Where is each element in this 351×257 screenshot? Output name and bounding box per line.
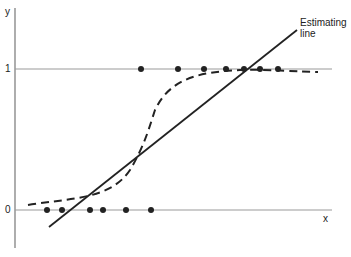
plot-area xyxy=(0,0,351,257)
estimating-line xyxy=(49,30,297,227)
y-tick-1: 1 xyxy=(5,63,11,74)
y-axis-label: y xyxy=(5,6,10,17)
x-axis-label: x xyxy=(323,213,328,224)
logistic-curve xyxy=(28,70,318,205)
annotation-line: line xyxy=(300,28,316,39)
annotation-estimating: Estimating xyxy=(300,17,347,28)
figure: y 1 0 x Estimating line xyxy=(0,0,351,257)
y-tick-0: 0 xyxy=(5,204,11,215)
